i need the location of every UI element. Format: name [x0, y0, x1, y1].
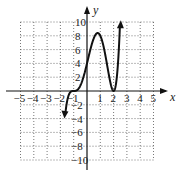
y-tick-label: −4 [71, 113, 83, 125]
y-axis-label: y [92, 3, 99, 17]
x-axis-label: x [169, 90, 176, 104]
x-tick-label: 5 [151, 92, 157, 104]
y-tick-label: −10 [71, 154, 89, 166]
x-axis-arrow-icon [160, 88, 168, 94]
y-tick-label: 6 [75, 44, 81, 56]
x-tick-label: 4 [137, 92, 143, 104]
x-tick-label: −3 [40, 92, 52, 104]
y-axis-arrow-icon [84, 6, 90, 14]
y-tick-label: 10 [75, 16, 87, 28]
x-tick-label: −4 [27, 92, 39, 104]
x-tick-label: 2 [111, 92, 117, 104]
y-tick-label: −8 [71, 140, 83, 152]
x-tick-label: 3 [124, 92, 130, 104]
arrow-up-icon [117, 20, 124, 28]
y-tick-label: 8 [75, 30, 81, 42]
graph: xy−5−4−3−2−112345108642−2−4−6−8−10 [0, 0, 177, 173]
x-tick-label: −5 [14, 92, 26, 104]
y-tick-label: 2 [75, 71, 81, 83]
y-tick-label: −2 [71, 99, 83, 111]
y-tick-label: −6 [71, 126, 83, 138]
x-tick-label: 1 [97, 92, 103, 104]
y-tick-label: 4 [75, 57, 81, 69]
x-tick-label: −2 [53, 92, 65, 104]
arrow-down-icon [61, 111, 68, 119]
